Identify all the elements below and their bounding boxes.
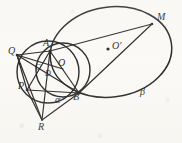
- vertex-dot-M: [151, 23, 154, 26]
- point-label-A: A: [43, 38, 49, 48]
- point-label-O: O: [58, 58, 65, 68]
- point-label-C: C: [35, 64, 40, 72]
- vertex-dot-A: [49, 50, 52, 53]
- curve-label-beta: β: [140, 87, 145, 97]
- point-label-O-prime: O′: [112, 41, 121, 51]
- segment-B-M: [79, 24, 152, 93]
- center-dot-o-prime-icon: [106, 47, 109, 50]
- point-label-B: B: [73, 92, 79, 102]
- segment-P-R: [27, 90, 42, 120]
- angle-label-alpha: α: [55, 95, 60, 105]
- point-label-P: P: [18, 81, 24, 91]
- vertex-dot-Q: [16, 54, 19, 57]
- geometry-figure: Q A O C D P B R M O′ β α: [0, 0, 182, 143]
- point-label-R: R: [38, 122, 44, 132]
- segment-A-M: [50, 24, 152, 51]
- point-label-D: D: [45, 70, 51, 78]
- geometry-canvas: [0, 0, 182, 143]
- vertex-dot-P: [26, 89, 29, 92]
- segment-Q-A: [17, 51, 50, 55]
- point-label-M: M: [157, 12, 165, 22]
- point-label-Q: Q: [8, 46, 15, 56]
